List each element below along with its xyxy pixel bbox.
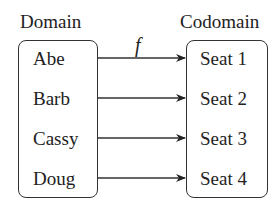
mapping-arrows [0,0,279,212]
